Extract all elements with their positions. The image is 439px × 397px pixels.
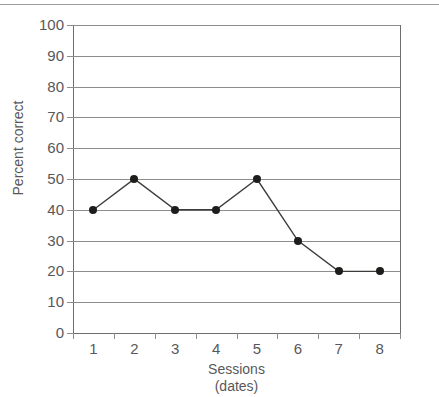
x-tick-mark-7.5 — [359, 333, 360, 339]
x-tick-label-2: 2 — [114, 341, 154, 357]
x-tick-label-6: 6 — [278, 341, 318, 357]
y-tick-mark-70 — [67, 117, 74, 118]
x-axis-title-line2: (dates) — [73, 378, 400, 395]
y-tick-label-70: 70 — [20, 109, 64, 124]
data-point-marker — [171, 206, 179, 214]
x-tick-label-3: 3 — [155, 341, 195, 357]
y-tick-mark-90 — [67, 56, 74, 57]
x-tick-label-1: 1 — [73, 341, 113, 357]
y-tick-label-50: 50 — [20, 171, 64, 186]
y-tick-label-40: 40 — [20, 202, 64, 217]
y-tick-label-100: 100 — [20, 17, 64, 32]
x-tick-mark-2.5 — [155, 333, 156, 339]
x-tick-mark-5.5 — [277, 333, 278, 339]
x-tick-mark-6.5 — [318, 333, 319, 339]
x-tick-mark-3.5 — [196, 333, 197, 339]
x-tick-mark-1.5 — [114, 333, 115, 339]
y-tick-mark-50 — [67, 179, 74, 180]
x-tick-mark-4.5 — [237, 333, 238, 339]
y-tick-label-20: 20 — [20, 263, 64, 278]
y-tick-label-0: 0 — [20, 325, 64, 340]
y-tick-mark-20 — [67, 271, 74, 272]
data-point-marker — [212, 206, 220, 214]
y-tick-label-30: 30 — [20, 233, 64, 248]
y-axis-title: Percent correct — [10, 68, 26, 228]
x-axis-title-line1: Sessions — [73, 361, 400, 378]
y-tick-mark-60 — [67, 148, 74, 149]
y-tick-mark-0 — [67, 333, 74, 334]
x-axis-title: Sessions (dates) — [73, 361, 400, 395]
y-tick-label-60: 60 — [20, 140, 64, 155]
data-point-marker — [376, 267, 384, 275]
y-tick-mark-40 — [67, 210, 74, 211]
x-tick-mark-8.5 — [400, 333, 401, 339]
y-tick-mark-80 — [67, 87, 74, 88]
y-tick-mark-10 — [67, 302, 74, 303]
y-tick-label-10: 10 — [20, 294, 64, 309]
data-point-marker — [294, 237, 302, 245]
plot-area — [73, 25, 400, 333]
x-tick-label-5: 5 — [237, 341, 277, 357]
y-tick-label-90: 90 — [20, 48, 64, 63]
data-point-marker — [253, 175, 261, 183]
x-tick-label-4: 4 — [196, 341, 236, 357]
y-tick-mark-30 — [67, 241, 74, 242]
y-tick-label-80: 80 — [20, 79, 64, 94]
series-line-path — [73, 25, 400, 333]
series-polyline — [93, 179, 379, 271]
x-tick-label-8: 8 — [360, 341, 400, 357]
line-chart-figure: 0102030405060708090100 12345678 Percent … — [0, 0, 439, 397]
x-tick-label-7: 7 — [319, 341, 359, 357]
y-tick-mark-100 — [67, 25, 74, 26]
right-frame-line — [400, 25, 401, 334]
